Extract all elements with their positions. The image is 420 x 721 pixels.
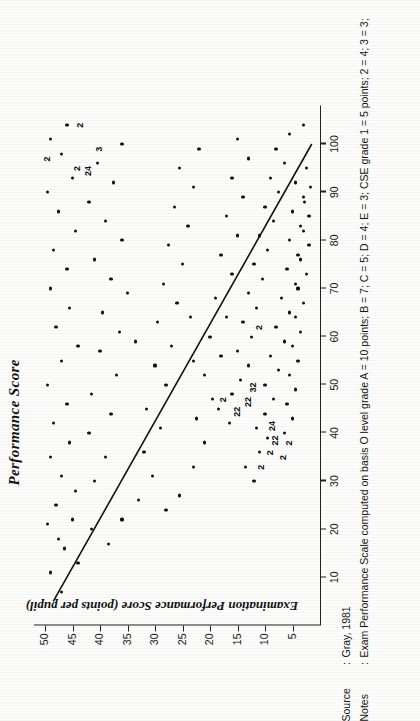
data-point xyxy=(76,344,79,347)
data-point xyxy=(76,561,79,564)
data-point xyxy=(49,570,52,573)
data-point xyxy=(49,286,52,289)
data-point xyxy=(120,517,123,520)
y-tick-label: 15 xyxy=(232,633,243,659)
data-point xyxy=(291,344,294,347)
data-point xyxy=(239,378,242,381)
y-tick xyxy=(155,625,156,631)
x-tick-label: 20 xyxy=(328,515,340,543)
data-point xyxy=(115,373,118,376)
point-count-label: 22 xyxy=(271,435,280,445)
data-point xyxy=(252,479,255,482)
notes-key: Notes xyxy=(358,669,370,721)
data-point xyxy=(263,412,266,415)
data-point xyxy=(219,253,222,256)
data-point xyxy=(219,354,222,357)
y-tick xyxy=(73,625,74,631)
data-point xyxy=(291,209,294,212)
x-tick xyxy=(320,431,326,432)
data-point xyxy=(296,286,299,289)
data-point xyxy=(258,233,261,236)
data-point xyxy=(109,277,112,280)
data-point xyxy=(247,291,250,294)
data-point xyxy=(52,248,55,251)
data-point xyxy=(269,354,272,357)
y-tick xyxy=(183,625,184,631)
data-point xyxy=(74,489,77,492)
caption-row-source: Source : Gray, 1981 xyxy=(340,0,353,721)
data-point xyxy=(263,383,266,386)
data-point xyxy=(96,161,99,164)
y-axis-title: Examination Performance Score (points pe… xyxy=(0,597,332,613)
data-point xyxy=(294,180,297,183)
data-point xyxy=(126,291,129,294)
data-point xyxy=(283,339,286,342)
data-point xyxy=(49,137,52,140)
point-count-label: 32 xyxy=(249,382,258,392)
data-point xyxy=(107,542,110,545)
data-point xyxy=(159,426,162,429)
data-point xyxy=(225,214,228,217)
data-point xyxy=(162,282,165,285)
y-tick-label: 45 xyxy=(67,633,78,659)
data-point xyxy=(57,209,60,212)
source-colon: : xyxy=(340,657,352,669)
data-point xyxy=(60,359,63,362)
data-point xyxy=(109,412,112,415)
data-point xyxy=(98,349,101,352)
data-point xyxy=(49,455,52,458)
data-point xyxy=(305,272,308,275)
data-point xyxy=(247,156,250,159)
data-point xyxy=(71,176,74,179)
x-tick-label: 90 xyxy=(328,178,340,206)
x-tick-label: 40 xyxy=(328,418,340,446)
point-count-label: 3 xyxy=(95,146,104,151)
notes-value: Exam Performance Scale computed on basis… xyxy=(358,0,371,657)
point-count-label: 2 xyxy=(73,166,82,171)
data-point xyxy=(170,344,173,347)
source-key: Source xyxy=(340,669,352,721)
x-tick xyxy=(320,528,326,529)
data-point xyxy=(214,296,217,299)
y-tick xyxy=(100,625,101,631)
data-point xyxy=(236,349,239,352)
x-tick xyxy=(320,142,326,143)
y-tick-label: 10 xyxy=(259,633,270,659)
x-tick xyxy=(320,576,326,577)
x-tick-label: 50 xyxy=(328,370,340,398)
data-point xyxy=(302,229,305,232)
data-point xyxy=(120,142,123,145)
point-count-label: 2 xyxy=(43,156,52,161)
data-point xyxy=(291,416,294,419)
point-count-label: 2 xyxy=(285,440,294,445)
data-point xyxy=(54,325,57,328)
data-point xyxy=(63,546,66,549)
data-point xyxy=(93,257,96,260)
data-point xyxy=(309,185,312,188)
data-point xyxy=(195,416,198,419)
y-tick xyxy=(293,625,294,631)
data-point xyxy=(294,387,297,390)
data-point xyxy=(230,392,233,395)
data-point xyxy=(274,147,277,150)
x-tick xyxy=(320,335,326,336)
y-tick-label: 35 xyxy=(122,633,133,659)
data-point xyxy=(60,152,63,155)
y-tick xyxy=(238,625,239,631)
x-tick xyxy=(320,383,326,384)
data-point xyxy=(93,479,96,482)
data-point xyxy=(258,450,261,453)
x-tick-label: 100 xyxy=(328,130,340,158)
data-point xyxy=(228,421,231,424)
data-point xyxy=(252,262,255,265)
data-point xyxy=(225,315,228,318)
y-tick-label: 30 xyxy=(149,633,160,659)
point-count-label: 22 xyxy=(233,406,242,416)
data-point xyxy=(302,123,305,126)
figure-page: Performance Score 5101520253035404550 10… xyxy=(0,0,420,721)
point-count-label: 2 xyxy=(279,454,288,459)
data-point xyxy=(112,180,115,183)
data-point xyxy=(65,267,68,270)
data-point xyxy=(288,310,291,313)
data-point xyxy=(241,320,244,323)
